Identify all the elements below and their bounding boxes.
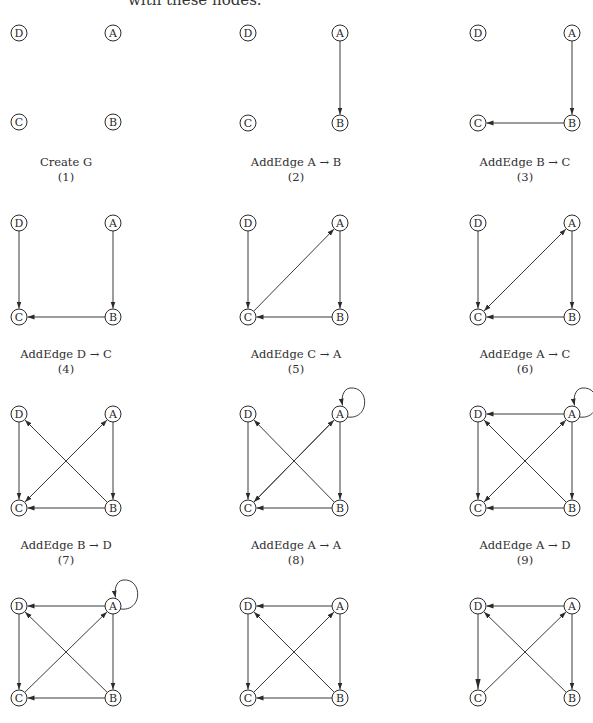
node-C: C: [470, 690, 486, 706]
node-A: A: [332, 598, 348, 614]
node-A: A: [105, 598, 121, 614]
node-C: C: [240, 115, 256, 131]
caption-title: AddEdge A → D: [425, 538, 593, 553]
node-label: D: [244, 217, 253, 230]
node-label: B: [109, 311, 117, 324]
node-label: D: [244, 408, 253, 421]
node-label: B: [568, 692, 576, 705]
node-A: A: [564, 406, 580, 422]
node-C: C: [240, 309, 256, 325]
caption-number: (6): [425, 362, 593, 377]
caption-title: AddEdge A → A: [196, 538, 396, 553]
graph-panel-7: ABCD: [11, 406, 121, 516]
caption-number: (2): [196, 170, 396, 185]
node-D: D: [240, 406, 256, 422]
node-label: A: [567, 27, 577, 40]
caption-number: (8): [196, 553, 396, 568]
node-B: B: [332, 500, 348, 516]
node-B: B: [105, 500, 121, 516]
node-A: A: [105, 406, 121, 422]
node-A: A: [332, 406, 348, 422]
node-label: D: [15, 217, 24, 230]
node-D: D: [470, 406, 486, 422]
node-A: A: [332, 25, 348, 41]
node-label: B: [568, 502, 576, 515]
node-label: D: [474, 600, 483, 613]
node-B: B: [332, 115, 348, 131]
node-label: C: [244, 117, 252, 130]
node-C: C: [470, 309, 486, 325]
node-label: A: [335, 408, 345, 421]
node-label: A: [335, 600, 345, 613]
graph-panel-12: ABCD: [470, 598, 580, 706]
node-label: B: [109, 692, 117, 705]
node-D: D: [240, 25, 256, 41]
node-D: D: [470, 215, 486, 231]
node-B: B: [332, 690, 348, 706]
node-label: B: [568, 311, 576, 324]
node-label: B: [336, 692, 344, 705]
node-label: C: [15, 116, 23, 129]
node-label: D: [15, 27, 24, 40]
node-D: D: [11, 406, 27, 422]
node-label: A: [108, 217, 118, 230]
graph-panel-1: ABCD: [11, 25, 121, 130]
node-D: D: [470, 598, 486, 614]
node-label: B: [336, 117, 344, 130]
node-C: C: [240, 500, 256, 516]
caption-number: (5): [196, 362, 396, 377]
caption-title: AddEdge C → A: [196, 347, 396, 362]
node-D: D: [11, 215, 27, 231]
node-C: C: [11, 309, 27, 325]
graph-panel-5: ABCD: [240, 215, 348, 325]
node-label: B: [336, 502, 344, 515]
node-B: B: [105, 114, 121, 130]
caption-panel-7: AddEdge B → D (7): [0, 538, 166, 568]
node-A: A: [105, 25, 121, 41]
node-D: D: [470, 25, 486, 41]
node-label: D: [474, 27, 483, 40]
caption-number: (9): [425, 553, 593, 568]
node-A: A: [564, 215, 580, 231]
caption-title: AddEdge B → C: [425, 155, 593, 170]
caption-panel-4: AddEdge D → C (4): [0, 347, 166, 377]
node-label: C: [244, 311, 252, 324]
caption-title: AddEdge A → C: [425, 347, 593, 362]
node-label: B: [109, 502, 117, 515]
node-C: C: [11, 500, 27, 516]
node-label: D: [15, 600, 24, 613]
node-B: B: [564, 500, 580, 516]
node-label: A: [567, 600, 577, 613]
node-label: A: [108, 408, 118, 421]
caption-title: Create G: [0, 155, 166, 170]
node-A: A: [564, 598, 580, 614]
node-label: D: [474, 217, 483, 230]
node-label: C: [474, 311, 482, 324]
node-A: A: [332, 215, 348, 231]
node-label: D: [474, 408, 483, 421]
node-label: A: [567, 217, 577, 230]
edge-C-to-A: [254, 229, 334, 311]
node-C: C: [11, 690, 27, 706]
node-label: A: [567, 408, 577, 421]
node-label: B: [568, 117, 576, 130]
caption-panel-2: AddEdge A → B (2): [196, 155, 396, 185]
caption-number: (7): [0, 553, 166, 568]
caption-number: (1): [0, 170, 166, 185]
node-label: A: [108, 600, 118, 613]
node-B: B: [105, 309, 121, 325]
node-B: B: [564, 690, 580, 706]
caption-number: (3): [425, 170, 593, 185]
node-label: C: [474, 117, 482, 130]
node-label: C: [474, 502, 482, 515]
node-label: C: [474, 692, 482, 705]
graph-panel-4: ABCD: [11, 215, 121, 325]
caption-title: AddEdge A → B: [196, 155, 396, 170]
node-B: B: [564, 309, 580, 325]
node-C: C: [11, 114, 27, 130]
node-label: A: [108, 27, 118, 40]
node-label: B: [336, 311, 344, 324]
node-D: D: [11, 598, 27, 614]
graph-panel-11: ABCD: [240, 598, 348, 706]
node-label: D: [244, 600, 253, 613]
